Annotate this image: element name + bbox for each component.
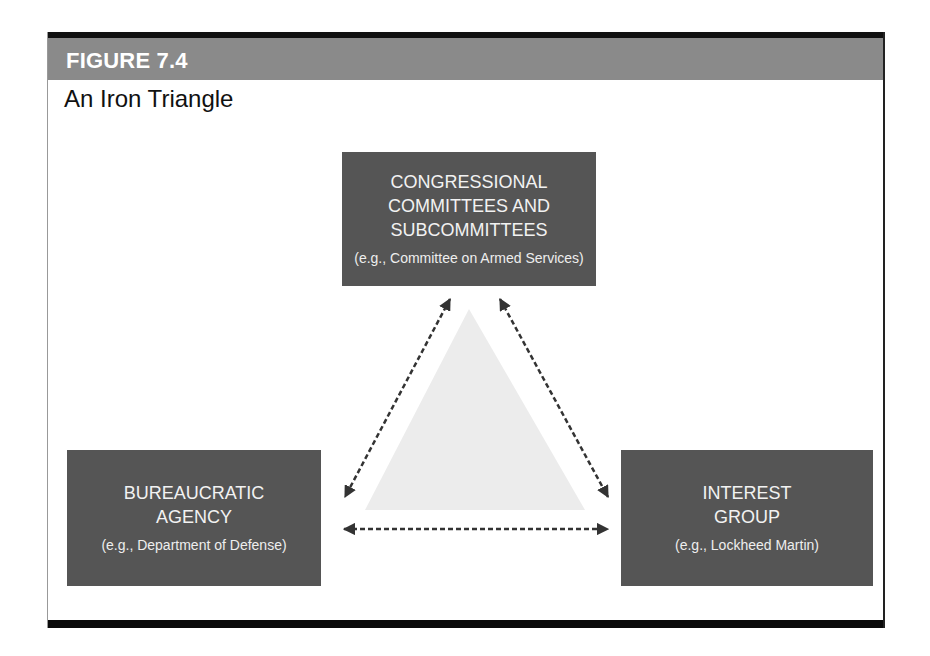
node-top-line-2: COMMITTEES AND bbox=[388, 194, 550, 218]
bottom-rule bbox=[48, 620, 883, 628]
node-top-line-1: CONGRESSIONAL bbox=[390, 170, 547, 194]
node-left-line-1: BUREAUCRATIC bbox=[124, 481, 265, 505]
node-left-example: (e.g., Department of Defense) bbox=[101, 535, 286, 555]
node-congressional-committees: CONGRESSIONAL COMMITTEES AND SUBCOMMITTE… bbox=[342, 152, 596, 286]
node-top-line-3: SUBCOMMITTEES bbox=[390, 218, 547, 242]
node-bureaucratic-agency: BUREAUCRATIC AGENCY (e.g., Department of… bbox=[67, 450, 321, 586]
node-right-example: (e.g., Lockheed Martin) bbox=[675, 535, 819, 555]
node-left-line-2: AGENCY bbox=[156, 505, 232, 529]
node-right-line-1: INTEREST bbox=[702, 481, 791, 505]
node-top-example: (e.g., Committee on Armed Services) bbox=[354, 248, 584, 268]
center-triangle bbox=[365, 309, 585, 510]
node-interest-group: INTEREST GROUP (e.g., Lockheed Martin) bbox=[621, 450, 873, 586]
figure-frame: FIGURE 7.4 An Iron Triangle CONGRESSIONA… bbox=[47, 32, 885, 628]
node-right-line-2: GROUP bbox=[714, 505, 780, 529]
